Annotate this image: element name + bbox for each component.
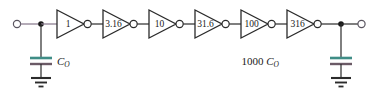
- input-terminal[interactable]: [13, 20, 20, 27]
- output-terminal[interactable]: [358, 20, 365, 27]
- load-capacitor-multiplier: 1000: [241, 54, 266, 66]
- input-capacitor-label: CO: [57, 54, 70, 68]
- inverter-chain-figure: CO 1 3.16 10 31.6 100 316: [0, 0, 379, 96]
- inverter-stage-4-bubble: [222, 20, 229, 27]
- inverter-stage-5-label: 100: [244, 19, 259, 29]
- load-capacitor-label: 1000 CO: [241, 54, 279, 68]
- inverter-stage-2-bubble: [130, 20, 137, 27]
- inverter-stage-1-bubble: [84, 20, 91, 27]
- inverter-stage-4-label: 31.6: [197, 19, 214, 29]
- inverter-stage-3-bubble: [176, 20, 183, 27]
- inverter-stage-3-label: 10: [155, 19, 165, 29]
- inverter-stage-1-triangle[interactable]: [57, 10, 84, 38]
- inverter-stage-5-bubble: [268, 20, 275, 27]
- inverter-stage-1-label: 1: [66, 19, 71, 29]
- inverter-stage-2-label: 3.16: [105, 19, 122, 29]
- circuit-schematic-svg: CO 1 3.16 10 31.6 100 316: [0, 0, 379, 96]
- inverter-stage-6-label: 316: [290, 19, 305, 29]
- inverter-stage-6-bubble: [314, 20, 321, 27]
